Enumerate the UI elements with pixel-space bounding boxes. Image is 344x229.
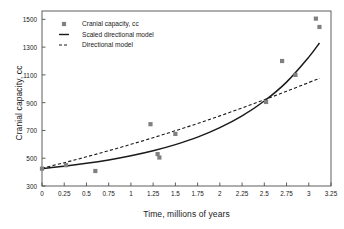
x-tick-label: 3.25: [325, 190, 337, 197]
x-tick-label: 3: [307, 190, 311, 197]
y-tick-label: 700: [2, 127, 37, 134]
y-tick-label: 1100: [2, 71, 37, 78]
y-tick-label: 1300: [2, 44, 37, 51]
legend-swatches: [59, 22, 69, 45]
y-tick-label: 500: [2, 155, 37, 162]
x-tick-label: 2.5: [260, 190, 269, 197]
x-tick-label: 2.25: [236, 190, 248, 197]
cranial-capacity-points: [40, 17, 322, 174]
x-tick-label: 1: [129, 190, 133, 197]
legend-entry-label: Cranial capacity, cc: [82, 20, 139, 27]
y-tick-label: 300: [2, 183, 37, 190]
legend-entry-label: Scaled directional model: [82, 31, 154, 38]
x-tick-label: 0.25: [58, 190, 70, 197]
x-tick-label: 2: [218, 190, 222, 197]
scaled-directional-model-line: [42, 43, 319, 169]
legend-entry-label: Directional model: [82, 41, 133, 48]
x-tick-label: 0: [40, 190, 44, 197]
x-tick-label: 0.75: [102, 190, 114, 197]
x-tick-label: 1.75: [191, 190, 203, 197]
x-tick-label: 2.75: [280, 190, 292, 197]
x-axis-title: Time, millions of years: [42, 209, 331, 219]
y-tick-label: 1500: [2, 16, 37, 23]
x-tick-label: 1.5: [171, 190, 180, 197]
directional-model-line: [42, 78, 319, 168]
x-tick-label: 0.5: [82, 190, 91, 197]
x-tick-label: 1.25: [147, 190, 159, 197]
chart-figure: Cranial capacity, cc Time, millions of y…: [0, 0, 344, 229]
y-tick-label: 900: [2, 99, 37, 106]
